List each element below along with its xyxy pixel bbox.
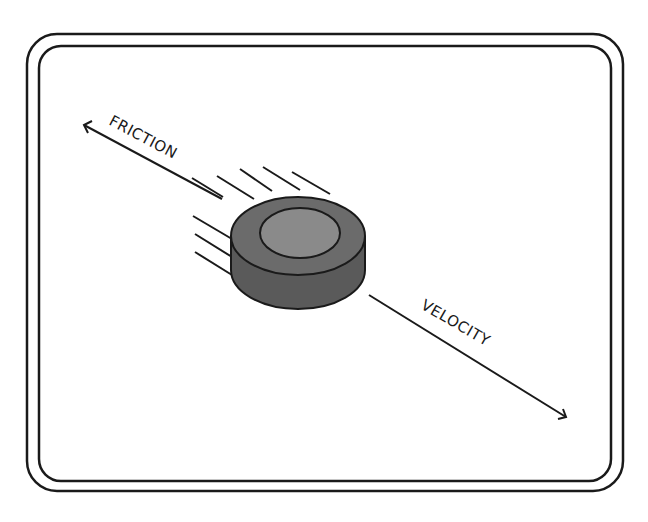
puck — [231, 197, 365, 309]
diagram-canvas: FRICTION VELOCITY — [0, 0, 648, 522]
puck-top-center — [260, 208, 340, 258]
friction-label: FRICTION — [106, 112, 180, 163]
velocity-label: VELOCITY — [418, 296, 494, 350]
velocity-arrow — [369, 295, 566, 419]
